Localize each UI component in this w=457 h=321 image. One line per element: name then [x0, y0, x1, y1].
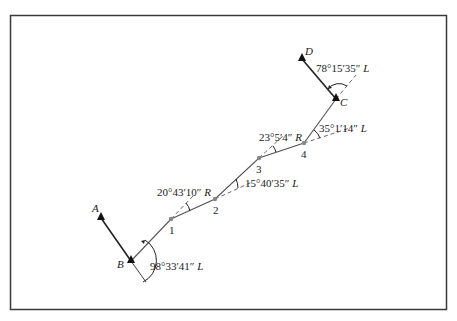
angle-arc-2: [236, 179, 238, 188]
station-4-marker: [302, 141, 306, 145]
angle-label-B: 98°33′41″ L: [150, 260, 203, 272]
angle-label-2: 15°40′35″ L: [245, 177, 298, 189]
traverse-legs: [131, 99, 336, 261]
angle-label-1: 20°43′10″ R: [157, 186, 211, 198]
label-D: D: [304, 45, 313, 57]
label-B: B: [117, 258, 124, 270]
angle-arc-3: [273, 146, 276, 152]
angle-label-4: 35°1′14″ L: [319, 122, 367, 134]
angle-label-C: 78°15′35″ L: [316, 62, 369, 74]
label-A: A: [91, 202, 99, 214]
label-station-2: 2: [213, 204, 219, 216]
station-1-marker: [169, 217, 173, 221]
station-3-marker: [257, 156, 261, 160]
extension-B: [131, 261, 146, 282]
label-station-1: 1: [169, 224, 175, 236]
label-station-4: 4: [301, 148, 307, 160]
arrowhead-B: [141, 240, 145, 244]
station-2-marker: [213, 197, 217, 201]
diagram-frame: [11, 16, 447, 310]
angle-label-3: 23°5′4″ R: [259, 131, 302, 143]
traverse-diagram: A B C D 1 2 3 4 98°33′41″ L 20°43′10″ R …: [0, 0, 457, 321]
label-station-3: 3: [256, 163, 262, 175]
control-point-C-icon: [332, 93, 340, 101]
angle-arc-1: [186, 203, 190, 211]
label-C: C: [340, 96, 348, 108]
line-A-B: [101, 218, 131, 261]
